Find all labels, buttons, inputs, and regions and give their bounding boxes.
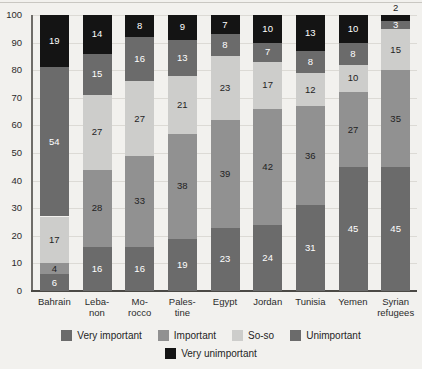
- bar-column[interactable]: 1628271514: [83, 15, 112, 291]
- bar-column[interactable]: 313612813: [296, 15, 325, 291]
- bar-column[interactable]: 45351532: [381, 15, 410, 291]
- x-axis-tick-label: Leba-non: [76, 296, 119, 318]
- bar-column[interactable]: 64175419: [40, 15, 69, 291]
- y-axis-tick-label: 90: [0, 38, 22, 48]
- x-axis-tick-label: Syrianrefugees: [374, 296, 417, 318]
- bar-segment-value: 33: [134, 196, 145, 206]
- bar-column[interactable]: 23392387: [211, 15, 240, 291]
- bar-segment[interactable]: 10: [253, 15, 282, 43]
- bar-segment[interactable]: 38: [168, 134, 197, 239]
- bar-segment[interactable]: 14: [83, 15, 112, 54]
- bar-stack: 64175419: [40, 15, 69, 291]
- bar-segment[interactable]: 6: [40, 274, 69, 291]
- y-axis-tick-label: 80: [0, 65, 22, 75]
- bar-segment-value: 8: [222, 40, 227, 50]
- bar-segment-value: 7: [222, 20, 227, 30]
- legend-swatch-icon: [232, 330, 243, 341]
- bar-segment-value: 45: [390, 224, 401, 234]
- bar-segment[interactable]: 27: [83, 95, 112, 170]
- bar-segment-value: 19: [177, 260, 188, 270]
- bar-segment[interactable]: 23: [211, 56, 240, 119]
- bar-segment[interactable]: 16: [125, 37, 154, 81]
- bar-column[interactable]: 452710810: [339, 15, 368, 291]
- bar-segment[interactable]: 13: [168, 40, 197, 76]
- bar-segment[interactable]: 23: [211, 228, 240, 291]
- bar-segment[interactable]: 21: [168, 76, 197, 134]
- bar-segment[interactable]: 24: [253, 225, 282, 291]
- bar-segment[interactable]: 8: [339, 43, 368, 65]
- bar-segment[interactable]: 15: [83, 54, 112, 95]
- bar-segment[interactable]: 2: [381, 15, 410, 21]
- bar-segment[interactable]: 39: [211, 120, 240, 228]
- bar-segment-value: 21: [177, 100, 188, 110]
- x-axis-tick-label-line: Jordan: [246, 296, 289, 307]
- bar-segment-value: 4: [52, 264, 57, 274]
- y-axis-tick-label: 70: [0, 93, 22, 103]
- bar-segment[interactable]: 7: [211, 15, 240, 34]
- y-axis-tick-label: 0: [0, 286, 22, 296]
- bar-segment[interactable]: 31: [296, 205, 325, 291]
- bar-segment-value: 15: [390, 45, 401, 55]
- bar-segment[interactable]: 19: [40, 15, 69, 67]
- bar-stack: 244217710: [253, 15, 282, 291]
- legend-label: Very unimportant: [181, 348, 257, 359]
- legend-swatch-icon: [158, 330, 169, 341]
- bar-segment[interactable]: 17: [253, 62, 282, 109]
- bar-segment[interactable]: 16: [83, 247, 112, 291]
- bar-segment[interactable]: 12: [296, 73, 325, 106]
- x-axis-tick-label-line: Yemen: [332, 296, 375, 307]
- x-axis-tick-label: Tunisia: [289, 296, 332, 307]
- chart-legend: Very importantImportantSo-soUnimportant …: [0, 330, 422, 366]
- bar-segment[interactable]: 35: [381, 70, 410, 167]
- bar-segment[interactable]: 36: [296, 106, 325, 205]
- bar-segment-value: 14: [92, 29, 103, 39]
- bar-column[interactable]: 193821139: [168, 15, 197, 291]
- bar-segment[interactable]: 8: [125, 15, 154, 37]
- x-axis-tick-label-line: non: [76, 307, 119, 318]
- bar-segment-value: 31: [305, 243, 316, 253]
- bar-segment-value: 35: [390, 114, 401, 124]
- legend-item[interactable]: Unimportant: [290, 330, 360, 341]
- legend-item[interactable]: Very unimportant: [165, 348, 257, 359]
- bar-segment[interactable]: 45: [381, 167, 410, 291]
- bar-segment[interactable]: 3: [381, 21, 410, 29]
- bars-area: 6417541916282715141633271681938211392339…: [33, 15, 417, 291]
- bar-segment[interactable]: 17: [40, 217, 69, 264]
- legend-item[interactable]: So-so: [232, 330, 274, 341]
- bar-segment[interactable]: 13: [296, 15, 325, 51]
- bar-segment-value: 6: [52, 278, 57, 288]
- bar-segment[interactable]: 7: [253, 43, 282, 62]
- bar-segment-value: 13: [177, 53, 188, 63]
- x-axis-tick-label-line: rocco: [118, 307, 161, 318]
- bar-segment-value: 10: [348, 24, 359, 34]
- legend-label: Very important: [77, 330, 141, 341]
- bar-segment[interactable]: 54: [40, 67, 69, 216]
- y-axis-tick-label: 60: [0, 120, 22, 130]
- legend-label: Important: [174, 330, 216, 341]
- bar-segment[interactable]: 28: [83, 170, 112, 247]
- bar-segment[interactable]: 27: [339, 92, 368, 167]
- bar-segment[interactable]: 4: [40, 263, 69, 274]
- x-axis-tick-labels: BahrainLeba-nonMo-roccoPales-tineEgyptJo…: [33, 296, 417, 322]
- bar-segment[interactable]: 10: [339, 65, 368, 93]
- bar-segment[interactable]: 19: [168, 239, 197, 291]
- legend-label: So-so: [248, 330, 274, 341]
- bar-segment-value: 2: [393, 3, 398, 13]
- bar-segment[interactable]: 27: [125, 81, 154, 156]
- legend-item[interactable]: Important: [158, 330, 216, 341]
- bar-segment-value: 9: [180, 22, 185, 32]
- bar-segment[interactable]: 45: [339, 167, 368, 291]
- bar-stack: 1628271514: [83, 15, 112, 291]
- bar-segment[interactable]: 42: [253, 109, 282, 225]
- bar-segment[interactable]: 8: [296, 51, 325, 73]
- bar-column[interactable]: 163327168: [125, 15, 154, 291]
- bar-segment[interactable]: 33: [125, 156, 154, 247]
- bar-segment[interactable]: 15: [381, 29, 410, 70]
- bar-stack: 163327168: [125, 15, 154, 291]
- bar-segment[interactable]: 8: [211, 34, 240, 56]
- bar-column[interactable]: 244217710: [253, 15, 282, 291]
- legend-item[interactable]: Very important: [61, 330, 141, 341]
- bar-segment[interactable]: 9: [168, 15, 197, 40]
- bar-segment[interactable]: 10: [339, 15, 368, 43]
- bar-segment[interactable]: 16: [125, 247, 154, 291]
